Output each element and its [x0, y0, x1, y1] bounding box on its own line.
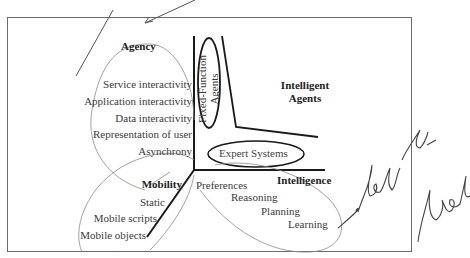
agency-item-application-interactivity: Application interactivity [84, 95, 192, 107]
intelligence-item-learning: Learning [288, 218, 328, 230]
mobility-item-mobile-objects: Mobile objects [80, 229, 146, 241]
pencil-arrow [145, 0, 195, 23]
agency-item-service-interactivity: Service interactivity [103, 78, 192, 90]
mobility-item-mobile-scripts: Mobile scripts [94, 212, 157, 224]
intelligence-label: Intelligence [277, 174, 331, 186]
expert-systems-label: Expert Systems [219, 147, 288, 159]
fixed-function-agents-label: Fixed-Function Agents [196, 44, 222, 134]
agency-label: Agency [121, 40, 156, 52]
agency-item-representation-of-user: Representation of user [93, 128, 192, 140]
intelligent-agents-label: Intelligent Agents [275, 79, 335, 105]
fixed-function-line1: Fixed-Function [196, 44, 208, 134]
intelligence-item-reasoning: Reasoning [231, 191, 277, 203]
mobility-label: Mobility [142, 178, 182, 190]
handwritten-annotation [338, 130, 470, 242]
mobility-item-static: Static [140, 196, 165, 208]
diagram-canvas [0, 0, 470, 258]
intelligent-agents-line2: Agents [275, 92, 335, 105]
agency-item-data-interactivity: Data interactivity [115, 112, 192, 124]
intelligence-item-preferences: Preferences [196, 179, 247, 191]
intelligence-item-planning: Planning [261, 205, 300, 217]
pencil-stroke-left [76, 10, 113, 76]
intelligent-agents-line1: Intelligent [275, 79, 335, 92]
fixed-function-line2: Agents [208, 44, 220, 134]
agency-item-asynchrony: Asynchrony [138, 145, 192, 157]
